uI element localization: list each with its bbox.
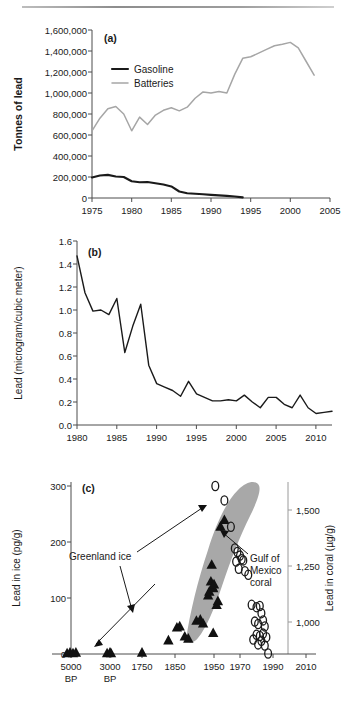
x-tick-label: 1985 (106, 432, 127, 443)
x-tick-label: 1990 (262, 661, 283, 672)
x-tick-label: 2005 (266, 432, 287, 443)
x-tick-label: 1970 (229, 661, 250, 672)
x-tick-label: 5000 (60, 661, 81, 672)
y-tick-label: 400,000 (53, 151, 87, 162)
annotation-label-gulf-coral-line3: coral (250, 577, 272, 588)
panel-a-chart: 1,600,000 1,400,000 1,200,000 1,000,000 … (0, 14, 342, 226)
marker-circle (221, 496, 228, 505)
panel-c-x-axis: 5000 BP 3000 BP 1750 1850 1950 1970 1990… (52, 654, 317, 684)
legend-label-batteries: Batteries (134, 78, 173, 89)
x-tick-label: 1750 (131, 661, 152, 672)
annotation-label-gulf-coral-line1: Gulf of (250, 553, 280, 564)
x-tick-label: 1980 (121, 205, 142, 216)
panel-a-y-axis: 1,600,000 1,400,000 1,200,000 1,000,000 … (45, 25, 92, 204)
panel-a-label: (a) (104, 32, 117, 44)
x-tick-label: 1985 (161, 205, 182, 216)
x-tick-label: 1975 (81, 205, 102, 216)
y-tick-label: 200 (50, 537, 66, 548)
leader-line (120, 566, 132, 610)
panel-c-right-axis-title: Lead in coral (µg/g) (324, 525, 335, 611)
panel-a-y-axis-title: Tonnes of lead (12, 77, 24, 150)
y-tick-label-right: 1,000 (296, 617, 320, 628)
leader-line (96, 584, 155, 644)
x-tick-label: 2000 (226, 432, 247, 443)
panel-b-y-axis: 1.6 1.4 1.2 1.0 0.8 0.6 0.4 0.2 0.0 (59, 236, 77, 431)
x-tick-label: 1850 (164, 661, 185, 672)
panel-c-left-y-axis: 300 200 100 0 (50, 481, 71, 660)
y-tick-label: 1,600,000 (45, 25, 87, 36)
y-tick-label: 1,000,000 (45, 88, 87, 99)
series-line-gasoline (92, 175, 243, 197)
x-tick-label: 1990 (146, 432, 167, 443)
x-tick-label: 1980 (66, 432, 87, 443)
marker-triangle (137, 647, 147, 657)
marker-circle (212, 481, 219, 490)
x-tick-label: 3000 (99, 661, 120, 672)
y-tick-label: 100 (50, 593, 66, 604)
y-tick-label-right: 1,500 (296, 505, 320, 516)
panel-c-left-axis-title: Lead in ice (pg/g) (11, 529, 22, 606)
y-tick-label: 300 (50, 481, 66, 492)
panel-c-label: (c) (82, 482, 95, 494)
legend-label-gasoline: Gasoline (134, 64, 174, 75)
panel-c-chart: 300 200 100 0 1,500 1,250 1,000 5000 BP … (0, 462, 342, 710)
annotation-label-greenland-ice: Greenland ice (69, 551, 132, 562)
panel-b-y-axis-title: Lead (microgram/cubic meter) (13, 266, 24, 399)
y-tick-label: 200,000 (53, 172, 87, 183)
marker-triangle (208, 628, 218, 638)
y-tick-label: 600,000 (53, 130, 87, 141)
y-tick-label: 0 (82, 193, 87, 204)
panel-c-svg: 300 200 100 0 1,500 1,250 1,000 5000 BP … (0, 462, 342, 710)
annotation-greenland-ice: Greenland ice (69, 505, 207, 647)
x-tick-label: 2010 (295, 661, 316, 672)
x-tick-label: 2010 (305, 432, 326, 443)
x-tick-label: 1995 (186, 432, 207, 443)
y-tick-label: 0.0 (59, 420, 72, 431)
panel-a-legend: Gasoline Batteries (112, 64, 174, 89)
y-tick-label: 0.2 (59, 397, 72, 408)
x-tick-label-unit: BP (104, 673, 117, 684)
panel-b-svg: 1.6 1.4 1.2 1.0 0.8 0.6 0.4 0.2 0.0 1980… (0, 232, 342, 457)
arrowhead-icon (94, 639, 103, 647)
y-tick-label: 1,400,000 (45, 46, 87, 57)
x-tick-label: 2005 (319, 205, 340, 216)
annotation-label-gulf-coral-line2: Mexico (250, 565, 282, 576)
x-tick-label: 1995 (240, 205, 261, 216)
y-tick-label: 1.0 (59, 305, 72, 316)
panel-a-svg: 1,600,000 1,400,000 1,200,000 1,000,000 … (0, 14, 342, 226)
y-tick-label-right: 1,250 (296, 561, 320, 572)
y-tick-label: 1.2 (59, 282, 72, 293)
marker-triangle (163, 635, 173, 645)
panel-b-x-axis: 1980 1985 1990 1995 2000 2005 2010 (66, 425, 332, 443)
x-tick-label: 2000 (280, 205, 301, 216)
series-line-batteries (92, 42, 314, 130)
panel-c-right-y-axis: 1,500 1,250 1,000 (288, 482, 320, 654)
x-tick-label-unit: BP (65, 673, 78, 684)
y-tick-label: 0.4 (59, 374, 72, 385)
y-tick-label: 1,200,000 (45, 67, 87, 78)
y-tick-label: 1.4 (59, 259, 72, 270)
y-tick-label: 800,000 (53, 109, 87, 120)
y-tick-label: 0.6 (59, 351, 72, 362)
arrowhead-icon (198, 505, 207, 512)
y-tick-label: 1.6 (59, 236, 72, 247)
series-line-airborne-lead (77, 256, 332, 414)
y-tick-label: 0.8 (59, 328, 72, 339)
page-top-rule (22, 6, 334, 8)
panel-b-chart: 1.6 1.4 1.2 1.0 0.8 0.6 0.4 0.2 0.0 1980… (0, 232, 342, 457)
leader-line (137, 506, 205, 552)
panel-a-x-axis: 1975 1980 1985 1990 1995 2000 2005 (81, 198, 340, 216)
x-tick-label: 1990 (200, 205, 221, 216)
panel-b-label: (b) (88, 246, 101, 258)
x-tick-label: 1950 (203, 661, 224, 672)
